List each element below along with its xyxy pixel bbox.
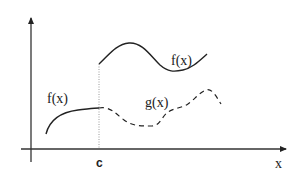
g-label: g(x) [145, 96, 168, 110]
f-left-branch-curve [46, 108, 99, 134]
f-lower-label: f(x) [47, 92, 68, 106]
c-tick-label: c [96, 157, 103, 169]
x-axis-label: x [275, 157, 282, 171]
discontinuity-diagram: f(x) f(x) g(x) c x [0, 0, 297, 180]
f-upper-label: f(x) [171, 54, 192, 68]
diagram-canvas [0, 0, 297, 180]
